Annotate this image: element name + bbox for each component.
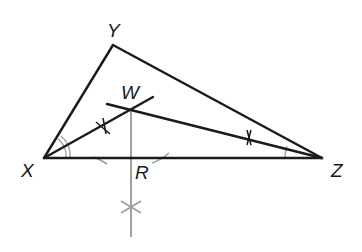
vertex-label-y: Y: [107, 21, 120, 40]
bisector-z: [107, 104, 322, 158]
triangle-xyz: [44, 45, 322, 158]
bisector-tick-marks: [96, 118, 251, 145]
vertex-label-x: X: [21, 161, 34, 180]
vertex-label-z: Z: [331, 161, 343, 180]
bisector-x: [44, 97, 153, 158]
point-label-r: R: [135, 163, 149, 182]
triangle-construction-diagram: [0, 0, 362, 252]
side-xy: [44, 45, 113, 158]
construction-marks: [58, 110, 287, 237]
point-label-w: W: [121, 83, 139, 102]
